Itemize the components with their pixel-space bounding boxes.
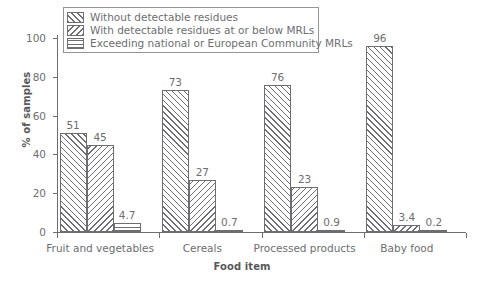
- y-tick-label: 100: [16, 33, 46, 43]
- bar: [318, 230, 345, 232]
- bar-value-label: 0.7: [205, 217, 254, 228]
- legend-label: Exceeding national or European Community…: [90, 37, 353, 50]
- x-axis-title: Food item: [0, 261, 484, 272]
- bar-value-label: 96: [355, 33, 404, 44]
- bar: [114, 223, 141, 232]
- bar-chart: % of samples 020406080100 51454.773270.7…: [0, 0, 484, 285]
- legend-label: Without detectable residues: [90, 11, 238, 24]
- bar-value-label: 76: [253, 72, 302, 83]
- y-tick-label: 40: [16, 149, 46, 159]
- y-axis-line: [57, 35, 58, 233]
- x-tick-mark: [262, 233, 263, 238]
- bar: [60, 133, 87, 232]
- y-tick-label: 20: [16, 188, 46, 198]
- bar: [264, 85, 291, 232]
- x-tick-mark: [159, 233, 160, 238]
- y-tick-mark: [53, 38, 57, 39]
- legend-swatch-icon: [67, 12, 84, 23]
- y-tick-label: 80: [16, 72, 46, 82]
- bar: [420, 230, 447, 232]
- legend-swatch-icon: [67, 25, 84, 36]
- bar-value-label: 73: [151, 77, 200, 88]
- bar-value-label: 27: [178, 167, 227, 178]
- y-tick-mark: [53, 116, 57, 117]
- bar-value-label: 0.9: [307, 217, 356, 228]
- bar-value-label: 4.7: [103, 210, 152, 221]
- x-tick-mark: [364, 233, 365, 238]
- bar: [366, 46, 393, 232]
- y-tick-label: 0: [16, 227, 46, 237]
- bar-value-label: 51: [49, 120, 98, 131]
- bar-value-label: 0.2: [409, 217, 458, 228]
- bar-value-label: 45: [76, 132, 125, 143]
- bar: [162, 90, 189, 232]
- x-tick-mark: [466, 233, 467, 238]
- y-tick-mark: [53, 193, 57, 194]
- legend-label: With detectable residues at or below MRL…: [90, 24, 314, 37]
- y-tick-label: 60: [16, 111, 46, 121]
- category-label: Baby food: [327, 242, 484, 254]
- bar: [216, 230, 243, 232]
- x-tick-mark: [57, 233, 58, 238]
- bar-value-label: 23: [280, 174, 329, 185]
- y-tick-mark: [53, 77, 57, 78]
- legend-swatch-icon: [67, 38, 84, 49]
- y-tick-mark: [53, 154, 57, 155]
- legend: Without detectable residuesWith detectab…: [63, 7, 319, 53]
